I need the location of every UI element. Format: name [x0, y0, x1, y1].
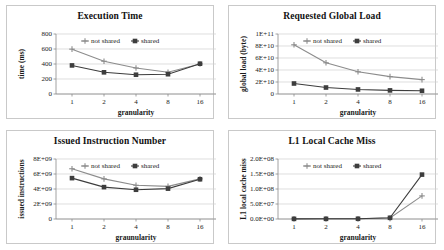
plot-area: 02E+104E+106E+108E+101E+11124816granular… — [226, 22, 438, 118]
y-tick-label: 0.0E+00 — [250, 215, 274, 223]
chart-title: L1 Local Cache Miss — [226, 136, 438, 146]
x-tick-label: 16 — [419, 98, 427, 106]
data-point-marker-square — [356, 216, 361, 221]
x-tick-label: 1 — [292, 223, 296, 231]
y-tick-label: 2E+10 — [255, 78, 274, 86]
plot-area: 0.0E+005.0E+071.0E+081.5E+082.0E+0812481… — [226, 147, 438, 243]
x-tick-label: 1 — [292, 98, 296, 106]
x-axis-title: granularity — [118, 108, 155, 117]
panel-requested-global-load: Requested Global Load 02E+104E+106E+108E… — [222, 0, 444, 125]
legend-label: shared — [141, 37, 160, 45]
x-tick-label: 2 — [102, 98, 106, 106]
series-line-shared — [294, 175, 422, 219]
y-tick-label: 2.0E+08 — [250, 155, 274, 163]
y-tick-label: 6E+10 — [255, 54, 274, 62]
x-tick-label: 2 — [324, 223, 328, 231]
y-tick-label: 400 — [42, 60, 53, 68]
data-point-marker-square — [198, 177, 203, 182]
data-point-marker-square — [70, 176, 75, 181]
y-tick-label: 6E+09 — [33, 170, 52, 178]
x-axis-title: granularity — [340, 233, 377, 242]
y-tick-label: 5.0E+07 — [250, 200, 274, 208]
y-tick-label: 8E+10 — [255, 42, 274, 50]
x-tick-label: 4 — [134, 223, 138, 231]
data-point-marker-square — [134, 72, 139, 77]
data-point-marker-square — [324, 217, 329, 222]
y-axis-title: issued instructions — [17, 159, 26, 218]
y-tick-label: 800 — [42, 30, 53, 38]
x-tick-label: 16 — [197, 98, 205, 106]
plot-area: 02E+094E+096E+098E+09124816graunularityi… — [4, 147, 216, 243]
data-point-marker-square — [166, 72, 171, 77]
legend-label: shared — [363, 37, 382, 45]
data-point-marker-square — [388, 88, 393, 93]
legend-label: not shared — [313, 162, 342, 170]
legend-marker-square — [133, 39, 138, 44]
data-point-marker-square — [420, 172, 425, 177]
series-line-not-shared — [294, 196, 422, 219]
data-point-marker-square — [70, 63, 75, 68]
x-tick-label: 8 — [166, 223, 170, 231]
legend-marker-square — [355, 164, 360, 169]
chart-title: Issued Instruction Number — [4, 136, 216, 146]
x-tick-label: 8 — [166, 98, 170, 106]
data-point-marker-square — [388, 216, 393, 221]
data-point-marker-square — [134, 187, 139, 192]
line-chart-svg: 0200400600800124816granularitytime (ms)n… — [4, 22, 226, 118]
x-tick-label: 4 — [134, 98, 138, 106]
x-axis-title: graunularity — [116, 233, 157, 242]
x-tick-label: 2 — [324, 98, 328, 106]
y-tick-label: 0 — [271, 90, 275, 98]
legend-label: not shared — [91, 37, 120, 45]
y-tick-label: 4E+09 — [33, 185, 52, 193]
x-tick-label: 1 — [70, 98, 74, 106]
plot-area: 0200400600800124816granularitytime (ms)n… — [4, 22, 216, 118]
y-axis-title: global load (byte) — [239, 36, 248, 92]
panel-issued-instruction-number: Issued Instruction Number 02E+094E+096E+… — [0, 125, 222, 250]
y-axis-title: time (ms) — [17, 48, 26, 79]
x-tick-label: 8 — [388, 98, 392, 106]
y-tick-label: 2E+09 — [33, 200, 52, 208]
y-tick-label: 1.5E+08 — [250, 170, 274, 178]
y-tick-label: 200 — [42, 75, 53, 83]
y-tick-label: 0 — [49, 215, 53, 223]
line-chart-svg: 02E+104E+106E+108E+101E+11124816granular… — [226, 22, 444, 118]
legend-label: not shared — [313, 37, 342, 45]
legend-marker-square — [355, 39, 360, 44]
chart-title: Execution Time — [4, 11, 216, 21]
x-tick-label: 8 — [388, 223, 392, 231]
x-tick-label: 1 — [70, 223, 74, 231]
chart-title: Requested Global Load — [226, 11, 438, 21]
data-point-marker-square — [102, 70, 107, 75]
panel-execution-time: Execution Time 0200400600800124816granul… — [0, 0, 222, 125]
y-tick-label: 1E+11 — [256, 30, 275, 38]
x-tick-label: 4 — [356, 223, 360, 231]
y-tick-label: 1.0E+08 — [250, 185, 274, 193]
x-axis-title: granularity — [340, 108, 377, 117]
data-point-marker-square — [356, 87, 361, 92]
four-panel-chart-figure: Execution Time 0200400600800124816granul… — [0, 0, 444, 250]
data-point-marker-square — [198, 61, 203, 66]
line-chart-svg: 02E+094E+096E+098E+09124816graunularityi… — [4, 147, 226, 243]
y-tick-label: 0 — [49, 90, 53, 98]
x-tick-label: 2 — [102, 223, 106, 231]
x-tick-label: 16 — [419, 223, 427, 231]
y-tick-label: 8E+09 — [33, 155, 52, 163]
data-point-marker-square — [102, 185, 107, 190]
y-tick-label: 600 — [42, 45, 53, 53]
y-axis-title: L1 local cache miss — [239, 158, 248, 220]
legend-label: not shared — [91, 162, 120, 170]
x-tick-label: 4 — [356, 98, 360, 106]
legend-marker-square — [133, 164, 138, 169]
legend-label: shared — [141, 162, 160, 170]
legend-label: shared — [363, 162, 382, 170]
data-point-marker-square — [166, 186, 171, 191]
panel-l1-local-cache-miss: L1 Local Cache Miss 0.0E+005.0E+071.0E+0… — [222, 125, 444, 250]
line-chart-svg: 0.0E+005.0E+071.0E+081.5E+082.0E+0812481… — [226, 147, 444, 243]
y-tick-label: 4E+10 — [255, 66, 274, 74]
data-point-marker-square — [292, 217, 297, 222]
data-point-marker-square — [420, 88, 425, 93]
data-point-marker-square — [292, 81, 297, 86]
data-point-marker-square — [324, 85, 329, 90]
x-tick-label: 16 — [197, 223, 205, 231]
